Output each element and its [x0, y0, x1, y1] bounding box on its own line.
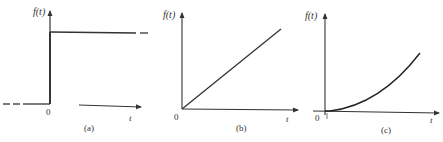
panel-c-caption: (c) — [381, 125, 391, 135]
panel-b-caption: (b) — [236, 123, 247, 133]
panel-b-xlabel: t — [286, 114, 289, 124]
panel-a-xlabel: t — [129, 113, 132, 123]
panel-a-caption: (a) — [84, 123, 94, 133]
panel-b-origin: 0 — [174, 112, 179, 122]
panel-b-ramp: f(t) 0 t (b) — [163, 9, 298, 133]
figure: f(t) 0 t (a) f(t) 0 t (b) f(t) 0 t (c) — [0, 0, 443, 142]
panel-a-origin: 0 — [46, 107, 51, 117]
panel-c-xlabel: t — [430, 115, 433, 125]
panel-b-ylabel: f(t) — [163, 9, 176, 21]
panel-c-curve — [325, 53, 420, 111]
panel-c-origin: 0 — [315, 113, 320, 123]
panel-a-step: f(t) 0 t (a) — [3, 6, 148, 133]
panel-c-parabola: f(t) 0 t (c) — [305, 10, 439, 135]
panel-a-ylabel: f(t) — [33, 6, 46, 18]
panel-b-ramp-line — [182, 29, 281, 109]
panel-b-x-axis — [182, 109, 298, 110]
panel-a-t-arrow — [79, 105, 141, 107]
panel-a-step-high — [50, 32, 136, 33]
panel-c-ylabel: f(t) — [305, 10, 318, 22]
